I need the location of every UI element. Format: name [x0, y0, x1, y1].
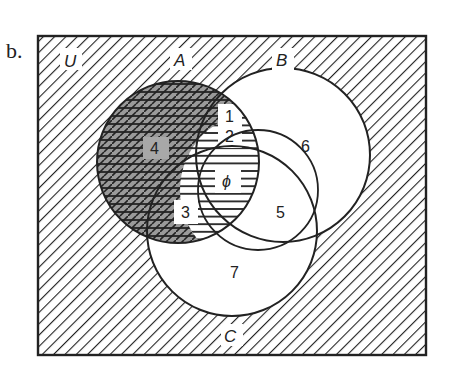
venn-svg: U A B C 4 1 2 6 ϕ 3 5 7: [0, 0, 455, 379]
region-4-number: 4: [150, 140, 159, 157]
venn-diagram-figure: b.: [0, 0, 455, 379]
region-6-number: 6: [301, 138, 310, 155]
region-3-number: 3: [181, 204, 190, 221]
set-c-label: C: [224, 327, 237, 346]
set-a-label: A: [173, 51, 185, 70]
region-7-number: 7: [230, 264, 239, 281]
region-1-number: 1: [225, 108, 234, 125]
region-empty-symbol: ϕ: [222, 173, 231, 190]
region-2-number: 2: [225, 128, 234, 145]
universe-label: U: [64, 52, 77, 71]
set-b-label: B: [276, 51, 287, 70]
region-5-number: 5: [276, 204, 285, 221]
